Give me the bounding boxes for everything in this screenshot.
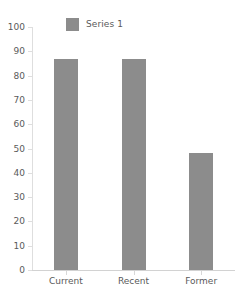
y-tick-label: 60 xyxy=(14,120,25,129)
x-tick-label: Recent xyxy=(118,277,149,286)
y-tick-mark xyxy=(28,270,32,271)
bar xyxy=(189,153,213,270)
y-axis-line xyxy=(32,27,33,271)
y-tick-mark xyxy=(28,221,32,222)
y-tick-mark xyxy=(28,124,32,125)
bar-chart: Series 1 0102030405060708090100 CurrentR… xyxy=(0,0,239,294)
y-tick-mark xyxy=(28,197,32,198)
x-tick-mark xyxy=(201,271,202,275)
y-tick-mark xyxy=(28,246,32,247)
bar xyxy=(122,59,146,270)
y-tick-label: 0 xyxy=(19,266,25,275)
y-tick-mark xyxy=(28,149,32,150)
y-tick-mark xyxy=(28,27,32,28)
y-tick-mark xyxy=(28,173,32,174)
x-tick-label: Current xyxy=(49,277,83,286)
y-tick-label: 90 xyxy=(14,47,25,56)
y-tick-label: 10 xyxy=(14,241,25,250)
x-tick-mark xyxy=(66,271,67,275)
y-tick-label: 80 xyxy=(14,71,25,80)
y-tick-label: 50 xyxy=(14,144,25,153)
y-tick-mark xyxy=(28,100,32,101)
bar xyxy=(54,59,78,270)
plot-area: 0102030405060708090100 CurrentRecentForm… xyxy=(32,27,235,271)
y-tick-label: 20 xyxy=(14,217,25,226)
y-tick-mark xyxy=(28,51,32,52)
y-tick-label: 70 xyxy=(14,95,25,104)
y-tick-label: 100 xyxy=(8,23,25,32)
y-tick-label: 40 xyxy=(14,168,25,177)
y-tick-mark xyxy=(28,76,32,77)
x-tick-label: Former xyxy=(185,277,217,286)
x-tick-mark xyxy=(134,271,135,275)
y-tick-label: 30 xyxy=(14,193,25,202)
